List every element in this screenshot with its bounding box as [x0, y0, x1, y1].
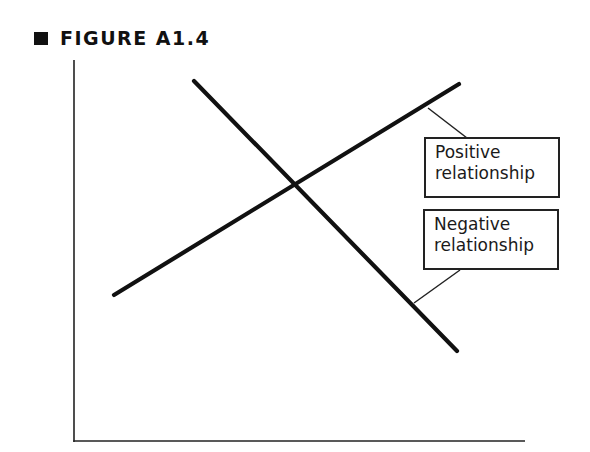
positive-leader-line [428, 108, 467, 138]
positive-label-line2: relationship [435, 163, 550, 184]
negative-label-line1: Negative [434, 214, 549, 235]
negative-relationship-line [194, 81, 457, 351]
positive-relationship-line [114, 84, 459, 295]
negative-leader-line [414, 270, 460, 303]
negative-relationship-label: Negative relationship [423, 209, 559, 270]
positive-relationship-label: Positive relationship [424, 137, 560, 198]
positive-label-line1: Positive [435, 142, 550, 163]
negative-label-line2: relationship [434, 235, 549, 256]
